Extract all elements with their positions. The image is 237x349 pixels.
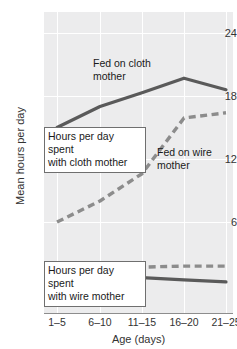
annotation-box-wire-line1: Hours per day spent: [48, 264, 142, 290]
annotation-box-cloth-line1: Hours per day spent: [48, 130, 142, 156]
annotation-box-cloth-mother: Hours per day spent with cloth mother: [44, 127, 146, 173]
annotation-box-cloth-line2: with cloth mother: [48, 156, 142, 169]
annotation-fed-on-cloth: Fed on cloth mother: [93, 57, 151, 83]
annotation-fed-on-wire: Fed on wire mother: [157, 146, 212, 172]
chart-container: 24 18 12 6 1–5 6–10 11–15 16–20 21–25 Ag…: [0, 0, 237, 349]
annotation-box-wire-line2: with wire mother: [48, 290, 142, 303]
annotation-box-wire-mother: Hours per day spent with wire mother: [44, 261, 146, 307]
annotation-fed-on-cloth-line2: mother: [93, 70, 151, 83]
annotation-fed-on-cloth-line1: Fed on cloth: [93, 57, 151, 70]
annotation-fed-on-wire-line2: mother: [157, 159, 212, 172]
series-cloth-fed-cloth: [57, 78, 226, 127]
annotation-fed-on-wire-line1: Fed on wire: [157, 146, 212, 159]
